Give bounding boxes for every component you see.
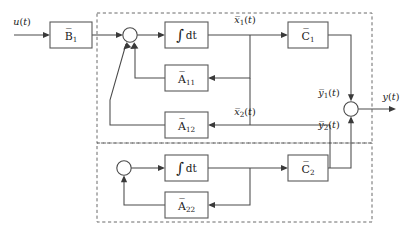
label-state-x2: x̅2(t) xyxy=(234,106,255,119)
arrowhead-a12-input xyxy=(208,122,215,128)
diagram-svg: B̅1 ∫dt C̅1 A̅11 xyxy=(0,0,408,233)
summing-junctions xyxy=(117,28,358,175)
arrowhead-a22-input xyxy=(208,202,215,208)
arrowhead-sum1-feedback-a11 xyxy=(130,42,138,49)
label-output-y1: y̅1(t) xyxy=(317,87,339,100)
arrowhead-c1-input xyxy=(281,32,288,38)
arrowhead-int1-input xyxy=(158,32,165,38)
wire-a11-to-sum1 xyxy=(135,44,165,78)
block-diagram-canvas: B̅1 ∫dt C̅1 A̅11 xyxy=(0,0,408,233)
label-output-y2: y̅2(t) xyxy=(317,119,339,132)
wire-x1-tap-to-a11 xyxy=(210,35,250,78)
blocks: B̅1 ∫dt C̅1 A̅11 xyxy=(50,22,328,218)
label-state-x1: x̅1(t) xyxy=(234,14,255,27)
subsystem-2-boundary xyxy=(97,143,372,222)
block-a11[interactable]: A̅11 xyxy=(165,65,208,91)
summing-junction-output[interactable] xyxy=(344,102,358,116)
wire-a12-to-sum1 xyxy=(110,44,165,125)
label-input-u: u(t) xyxy=(13,16,31,27)
subsystem-partitions xyxy=(97,13,372,222)
arrowhead-sum1-feedback-a12 xyxy=(123,42,131,49)
summing-junction-1[interactable] xyxy=(123,28,137,42)
block-c1[interactable]: C̅1 xyxy=(288,22,328,48)
label-output-y: y(t) xyxy=(382,91,400,102)
block-b1[interactable]: B̅1 xyxy=(50,22,92,48)
arrowhead-sumy-input-y2 xyxy=(348,116,354,123)
block-a22[interactable]: A̅22 xyxy=(165,192,208,218)
arrowhead-int2-input xyxy=(158,165,165,171)
summing-junction-2[interactable] xyxy=(117,161,131,175)
arrowhead-a11-input xyxy=(208,75,215,81)
block-integrator-1[interactable]: ∫dt xyxy=(165,22,208,48)
wire-x2-tap-to-a22 xyxy=(210,168,250,205)
arrowhead-output xyxy=(389,106,396,112)
block-c2[interactable]: C̅2 xyxy=(288,155,328,181)
block-a12[interactable]: A̅12 xyxy=(165,112,208,138)
arrowhead-c2-input xyxy=(281,165,288,171)
arrowhead-sum1-input xyxy=(116,32,123,38)
arrowhead-b1-input xyxy=(43,32,50,38)
arrowhead-sumy-input-y1 xyxy=(348,94,354,101)
wire-a22-to-sum2 xyxy=(124,177,165,205)
block-integrator-2[interactable]: ∫dt xyxy=(165,155,208,181)
wires-output xyxy=(328,35,396,168)
arrowhead-sum2-feedback-a22 xyxy=(121,175,127,182)
